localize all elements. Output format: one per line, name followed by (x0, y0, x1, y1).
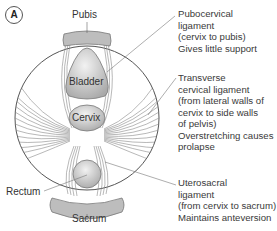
transverse-leader (148, 78, 176, 115)
label-bladder: Bladder (69, 76, 103, 87)
pubocervical-leader (107, 16, 175, 72)
label-sacrum: Sacrum (72, 213, 106, 224)
annotation-uterosacral: Uterosacral ligament (from cervix to sac… (178, 177, 276, 223)
pubis-bone (63, 31, 111, 46)
label-cervix: Cervix (72, 112, 100, 123)
panel-label: A (5, 6, 23, 24)
bladder (66, 48, 109, 99)
annotation-pubocervical: Pubocervical ligament (cervix to pubis) … (178, 8, 257, 54)
rectum (73, 160, 101, 188)
label-rectum: Rectum (6, 186, 40, 197)
annotation-transverse-cervical: Transverse cervical ligament (from later… (178, 72, 273, 153)
label-pubis: Pubis (72, 9, 97, 20)
